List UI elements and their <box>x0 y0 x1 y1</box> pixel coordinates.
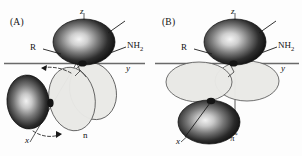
rotation-arrow-upper-head-a <box>41 65 47 71</box>
panel-label-b: (B) <box>162 18 175 28</box>
panel-b: (B) z y x R NH2 π* <box>151 0 302 156</box>
axis-label-y-a: y <box>126 64 130 73</box>
substituent-label-r-b: R <box>181 43 187 52</box>
axis-label-y-b: y <box>281 64 285 73</box>
substituent-label-r-a: R <box>30 43 36 52</box>
axis-label-z-a: z <box>80 7 84 16</box>
leader-line-top-a <box>108 21 125 33</box>
orbital-lobe-dark-top-b <box>204 19 266 65</box>
rotation-arrow-lower-head-a <box>56 131 62 138</box>
orbital-node-bottom-b <box>207 98 215 104</box>
orbital-label-pistar-b: π* <box>230 132 238 143</box>
leader-line-top-b <box>259 21 276 33</box>
panel-label-a: (A) <box>10 18 24 28</box>
orbital-lobe-dark-lower-a <box>4 73 51 131</box>
axis-label-x-b: x <box>176 137 180 146</box>
substituent-label-nh2-b: NH2 <box>278 41 294 52</box>
orbital-node-top-b <box>229 60 237 66</box>
orbital-label-n-a: n <box>83 131 88 140</box>
axis-label-z-b: z <box>231 7 235 16</box>
substituent-label-nh2-a: NH2 <box>127 41 143 52</box>
substituent-nh2-sub-a: 2 <box>140 45 143 52</box>
orbital-lobe-dark-top-a <box>53 19 115 65</box>
panel-a: (A) z y x R NH2 n <box>0 0 151 156</box>
orbital-lobe-light-front-b <box>166 62 232 102</box>
orbital-node-lower-a <box>47 99 53 108</box>
substituent-nh2-main-b: NH <box>278 40 291 50</box>
substituent-nh2-main-a: NH <box>127 40 140 50</box>
orbital-pistar-sup-b: * <box>235 131 238 138</box>
substituent-nh2-sub-b: 2 <box>291 45 294 52</box>
orbital-node-top-a <box>78 60 86 66</box>
axis-label-x-a: x <box>25 136 29 145</box>
orbital-figure: (A) z y x R NH2 n <box>0 0 302 156</box>
